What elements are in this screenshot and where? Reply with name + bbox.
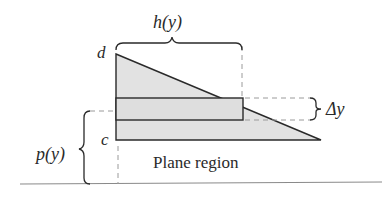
top-brace <box>116 37 242 50</box>
plane-region-diagram: h(y) d c Δy p(y) Plane region <box>0 0 382 199</box>
p-y-brace <box>79 111 90 184</box>
delta-y-brace <box>310 98 321 120</box>
d-label: d <box>97 43 106 62</box>
c-label: c <box>101 130 109 149</box>
ground-line <box>20 182 382 184</box>
h-of-y-label: h(y) <box>153 12 182 33</box>
strip-rectangle <box>116 98 243 120</box>
p-of-y-label: p(y) <box>34 144 65 165</box>
plane-region-shape <box>116 54 321 140</box>
delta-y-label: Δy <box>325 99 345 119</box>
plane-region-label: Plane region <box>153 153 239 172</box>
